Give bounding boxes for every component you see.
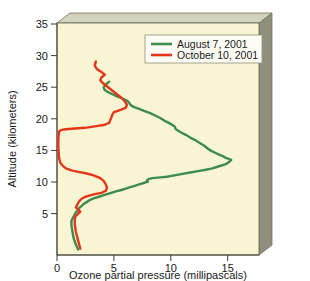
x-axis-title: Ozone partial pressure (millipascals) (69, 269, 247, 281)
chart-canvas: 35 30 25 20 15 10 5 0 5 10 15 Ozone part… (0, 0, 310, 281)
y-axis-title: Altitude (kilometers) (6, 90, 18, 187)
y-tick-label-5: 5 (42, 208, 48, 220)
y-tick-label-25: 25 (36, 81, 48, 93)
ozone-profile-figure: 35 30 25 20 15 10 5 0 5 10 15 Ozone part… (0, 0, 310, 281)
x-tick-label-0: 0 (54, 262, 60, 274)
box-top-face (57, 13, 272, 23)
y-axis-ticks (51, 24, 57, 214)
x-axis-ticks (57, 255, 228, 261)
legend: August 7, 2001 October 10, 2001 (145, 35, 262, 63)
y-tick-label-35: 35 (36, 18, 48, 30)
y-tick-label-20: 20 (36, 113, 48, 125)
y-tick-label-10: 10 (36, 176, 48, 188)
y-tick-label-15: 15 (36, 144, 48, 156)
y-tick-label-30: 30 (36, 50, 48, 62)
legend-label-october-10-2001: October 10, 2001 (177, 49, 258, 61)
